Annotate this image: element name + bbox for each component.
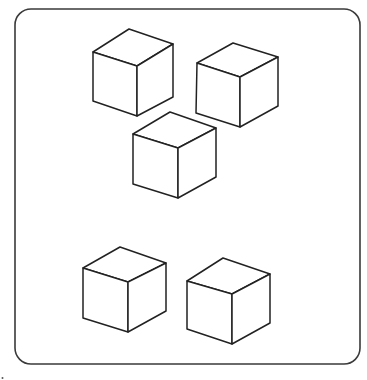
scan-speck bbox=[2, 377, 4, 379]
cubes-figure bbox=[0, 0, 367, 380]
